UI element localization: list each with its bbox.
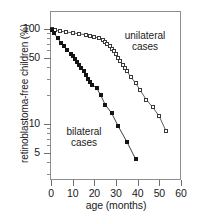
line-bilateral [52,30,136,159]
retinoblastoma-survival-chart: retinoblastoma-free children (%) age (mo… [0,0,199,220]
data-curves [0,0,199,220]
line-unilateral [52,29,166,130]
